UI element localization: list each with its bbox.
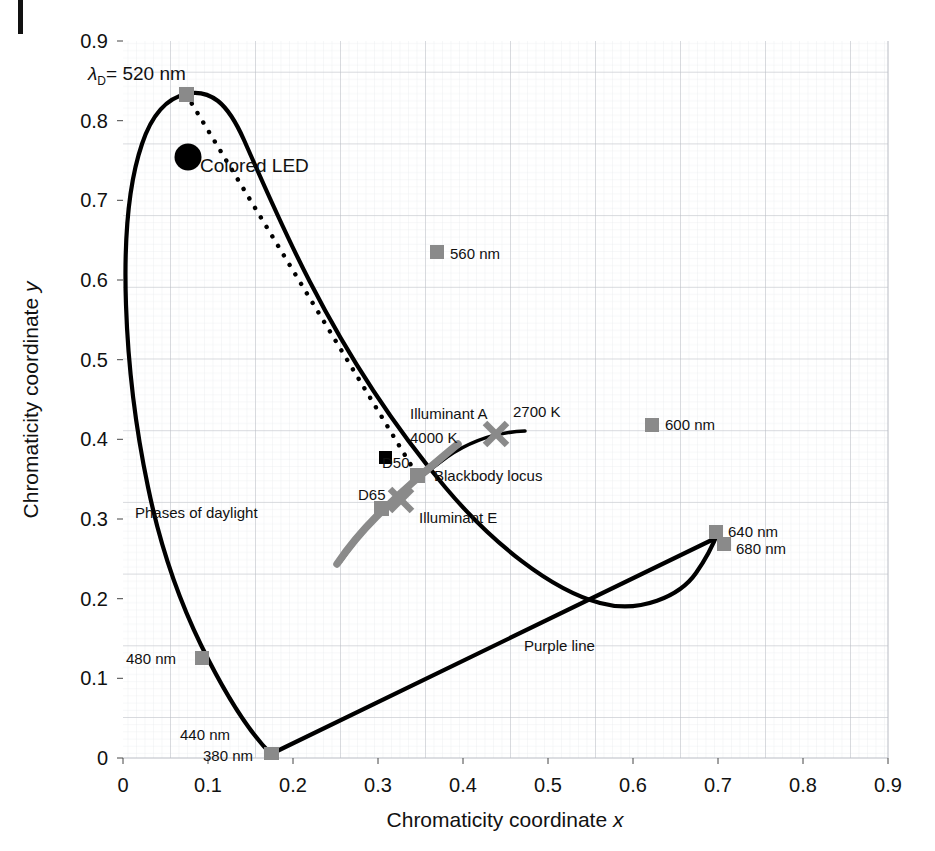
x-tick-3: 0.3 [364, 774, 392, 796]
marker-d65 [374, 501, 389, 516]
colored-led-point [175, 144, 202, 171]
marker-520nm [179, 87, 194, 102]
label-680nm: 680 nm [736, 540, 786, 557]
label-blackbody-locus: Blackbody locus [434, 467, 542, 484]
y-tick-9: 0.9 [80, 30, 108, 52]
y-tick-5: 0.5 [80, 349, 108, 371]
y-tick-8: 0.8 [80, 110, 108, 132]
x-tick-9: 0.9 [874, 774, 902, 796]
marker-480nm [195, 651, 209, 665]
label-illuminant-a: Illuminant A [410, 405, 488, 422]
colored-led-label: Colored LED [200, 155, 309, 176]
label-480nm: 480 nm [126, 650, 176, 667]
x-tick-4: 0.4 [449, 774, 477, 796]
y-tick-2: 0.2 [80, 588, 108, 610]
label-640nm: 640 nm [728, 523, 778, 540]
y-tick-7: 0.7 [80, 189, 108, 211]
label-illuminant-e: Illuminant E [419, 509, 497, 526]
figure-canvas: 0 0.1 0.2 0.3 0.4 0.5 0.6 0.7 0.8 0.9 0 … [0, 0, 935, 851]
label-phases-of-daylight: Phases of daylight [135, 504, 258, 521]
y-tick-4: 0.4 [80, 428, 108, 450]
x-tick-labels: 0 0.1 0.2 0.3 0.4 0.5 0.6 0.7 0.8 0.9 [117, 774, 901, 796]
marker-d50 [410, 468, 425, 483]
label-4000k: 4000 K [410, 429, 458, 446]
y-tick-6: 0.6 [80, 269, 108, 291]
y-tick-1: 0.1 [80, 667, 108, 689]
y-axis-ticks [117, 41, 123, 758]
x-tick-8: 0.8 [789, 774, 817, 796]
label-600nm: 600 nm [665, 416, 715, 433]
x-tick-5: 0.5 [534, 774, 562, 796]
x-tick-1: 0.1 [194, 774, 222, 796]
y-tick-labels: 0 0.1 0.2 0.3 0.4 0.5 0.6 0.7 0.8 0.9 [80, 30, 108, 769]
x-tick-2: 0.2 [279, 774, 307, 796]
y-axis-title: Chromaticity coordinate y [19, 280, 42, 518]
y-tick-3: 0.3 [80, 508, 108, 530]
marker-600nm [645, 418, 659, 432]
label-440nm: 440 nm [180, 726, 230, 743]
label-d65: D65 [358, 486, 386, 503]
y-tick-0: 0 [97, 747, 108, 769]
chromaticity-diagram-svg: 0 0.1 0.2 0.3 0.4 0.5 0.6 0.7 0.8 0.9 0 … [0, 0, 935, 851]
x-axis-title: Chromaticity coordinate x [387, 808, 625, 831]
label-purple-line: Purple line [524, 637, 595, 654]
label-2700k: 2700 K [513, 403, 561, 420]
plot-grid [123, 41, 888, 758]
label-380nm: 380 nm [203, 747, 253, 764]
x-tick-0: 0 [117, 774, 128, 796]
x-tick-7: 0.7 [704, 774, 732, 796]
label-560nm: 560 nm [450, 245, 500, 262]
marker-560nm [430, 245, 444, 259]
x-tick-6: 0.6 [619, 774, 647, 796]
marker-380nm [264, 747, 279, 760]
label-d50: D50 [382, 454, 410, 471]
marker-640nm [709, 525, 723, 539]
